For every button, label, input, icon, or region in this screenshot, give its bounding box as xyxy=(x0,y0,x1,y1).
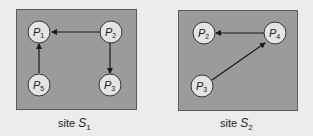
wait-for-graph: P1 P2 P5 P3 P2 P4 P3 xyxy=(0,0,313,136)
edge-p3-p4 xyxy=(212,43,265,80)
site-s1-label: site S1 xyxy=(58,116,91,132)
node-p3-s2: P3 xyxy=(191,75,213,97)
node-p2-s2: P2 xyxy=(193,22,215,44)
node-p1: P1 xyxy=(28,21,50,43)
site-s2-label: site S2 xyxy=(220,116,253,132)
node-p3: P3 xyxy=(99,74,121,96)
node-p4: P4 xyxy=(264,22,286,44)
node-p5: P5 xyxy=(28,74,50,96)
node-p2: P2 xyxy=(100,21,122,43)
